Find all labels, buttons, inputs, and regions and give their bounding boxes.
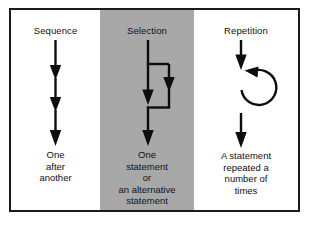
diagram-frame: Sequence One after another Selection [9,8,300,212]
caption-line: statement [100,161,194,173]
panel-selection: Selection One [100,10,194,210]
panel-selection-caption: One statement or an alternative statemen… [100,149,194,207]
caption-line: after [11,161,100,173]
panel-selection-title: Selection [100,25,194,36]
panel-sequence-title: Sequence [11,25,100,36]
panel-sequence-caption: One after another [11,149,100,184]
caption-line: One [11,149,100,161]
caption-line: or [100,172,194,184]
panel-repetition-caption: A statement repeated a number of times [194,150,298,196]
panel-repetition-title: Repetition [194,25,298,36]
figure-root: Sequence One after another Selection [0,0,310,226]
caption-line: an alternative [100,184,194,196]
caption-line: One [100,149,194,161]
caption-line: another [11,172,100,184]
caption-line: times [194,185,298,197]
caption-line: number of [194,173,298,185]
panel-sequence: Sequence One after another [11,10,100,210]
panel-repetition: Repetition A statement repeated a number… [194,10,298,210]
caption-line: repeated a [194,162,298,174]
caption-line: A statement [194,150,298,162]
caption-line: statement [100,195,194,207]
